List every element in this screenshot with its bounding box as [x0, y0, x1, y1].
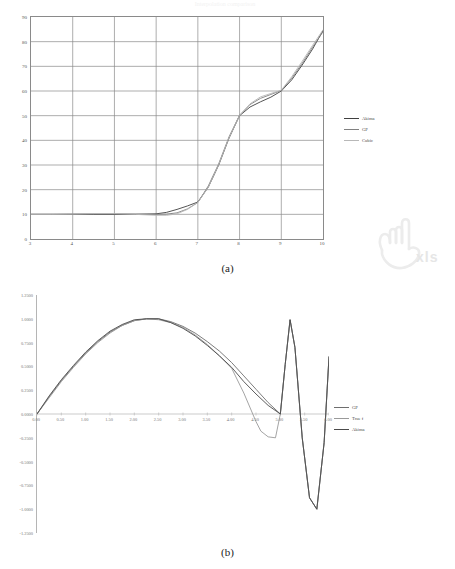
- chart-b-xtick: 6.00: [324, 417, 332, 422]
- chart-b-xtick: 1.00: [81, 417, 89, 422]
- chart-b-ytick: 0.7500: [21, 340, 33, 345]
- chart-b-xtick: 3.50: [202, 417, 210, 422]
- chart-b: 1.25001.00000.75000.50000.25000.0000-0.2…: [0, 289, 400, 539]
- chart-b-ytick: -0.5000: [19, 459, 33, 464]
- chart-b-legend-item[interactable]: True f: [334, 413, 365, 424]
- chart-a: 0102030405060708090 345678910 AkimaGPCub…: [0, 8, 340, 256]
- chart-b-legend-item[interactable]: Akima: [334, 424, 365, 435]
- legend-line-icon: [334, 407, 349, 408]
- chart-a-ytick: 40: [22, 138, 27, 143]
- chart-b-ytick: -1.2500: [19, 531, 33, 536]
- figure-b: 1.25001.00000.75000.50000.25000.0000-0.2…: [0, 285, 455, 569]
- legend-line-icon: [344, 129, 359, 130]
- chart-b-xtick: 4.50: [251, 417, 259, 422]
- chart-a-ytick: 30: [22, 163, 27, 168]
- chart-a-legend-label: Cubic: [362, 138, 373, 143]
- chart-a-xtick: 10: [320, 241, 325, 246]
- chart-a-legend: AkimaGPCubic: [344, 113, 375, 146]
- chart-b-legend-item[interactable]: GP: [334, 402, 365, 413]
- chart-a-ytick: 60: [22, 89, 27, 94]
- chart-a-xtick: 3: [29, 241, 32, 246]
- chart-b-ytick: -0.7500: [19, 483, 33, 488]
- chart-a-xtick: 8: [237, 241, 240, 246]
- chart-a-legend-item[interactable]: Akima: [344, 113, 375, 124]
- figure-b-caption: (b): [0, 546, 455, 558]
- chart-a-xtick: 7: [196, 241, 199, 246]
- chart-b-ytick: 0.5000: [21, 364, 33, 369]
- chart-b-xtick: 5.50: [300, 417, 308, 422]
- chart-a-ytick: 20: [22, 187, 27, 192]
- chart-a-ytick: 80: [22, 39, 27, 44]
- legend-line-icon: [334, 418, 349, 419]
- chart-a-plot-area: [30, 16, 324, 240]
- chart-a-xtick: 9: [279, 241, 282, 246]
- chart-b-svg: [37, 295, 329, 533]
- chart-b-ytick: 1.2500: [21, 293, 33, 298]
- chart-b-plot-area: [36, 295, 329, 533]
- figure-a-caption: (a): [0, 262, 455, 274]
- chart-a-ytick: 0: [25, 237, 28, 242]
- figure-a: Interpolation comparison 010203040506070…: [0, 0, 455, 285]
- chart-b-ytick: 1.0000: [21, 316, 33, 321]
- chart-b-x-axis: 0.000.501.001.502.002.503.003.504.004.50…: [36, 417, 328, 427]
- chart-b-legend-label: Akima: [352, 427, 365, 432]
- chart-b-xtick: 0.00: [32, 417, 40, 422]
- chart-b-ytick: -0.2500: [19, 435, 33, 440]
- chart-a-ytick: 70: [22, 64, 27, 69]
- chart-b-ytick: -1.0000: [19, 507, 33, 512]
- chart-a-xtick: 6: [154, 241, 157, 246]
- legend-line-icon: [334, 429, 349, 430]
- chart-a-ytick: 10: [22, 212, 27, 217]
- chart-b-ytick: 0.2500: [21, 388, 33, 393]
- chart-a-ytick: 50: [22, 113, 27, 118]
- chart-b-xtick: 2.00: [129, 417, 137, 422]
- chart-b-xtick: 0.50: [56, 417, 64, 422]
- chart-b-xtick: 2.50: [154, 417, 162, 422]
- chart-a-xtick: 4: [70, 241, 73, 246]
- chart-b-legend: GPTrue fAkima: [334, 402, 365, 435]
- legend-line-icon: [344, 118, 359, 119]
- chart-a-ytick: 90: [22, 15, 27, 20]
- chart-a-legend-item[interactable]: GP: [344, 124, 375, 135]
- chart-a-legend-label: GP: [362, 127, 368, 132]
- chart-a-legend-label: Akima: [362, 116, 375, 121]
- chart-a-legend-item[interactable]: Cubic: [344, 135, 375, 146]
- chart-b-ytick: 0.0000: [21, 412, 33, 417]
- chart-b-xtick: 3.00: [178, 417, 186, 422]
- chart-a-svg: [31, 17, 323, 239]
- chart-b-xtick: 1.50: [105, 417, 113, 422]
- chart-b-xtick: 4.00: [227, 417, 235, 422]
- chart-b-y-axis: 1.25001.00000.75000.50000.25000.0000-0.2…: [0, 289, 33, 537]
- chart-b-legend-label: GP: [352, 405, 358, 410]
- chart-a-xtick: 5: [112, 241, 115, 246]
- chart-b-legend-label: True f: [352, 416, 363, 421]
- chart-a-y-axis: 0102030405060708090: [0, 8, 27, 238]
- legend-line-icon: [344, 140, 359, 141]
- chart-a-x-axis: 345678910: [30, 241, 322, 251]
- chart-b-xtick: 5.00: [275, 417, 283, 422]
